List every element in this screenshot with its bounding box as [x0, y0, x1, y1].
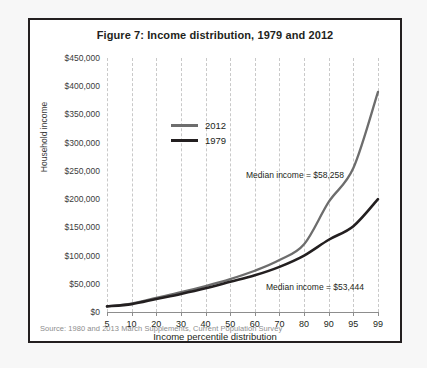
legend-item-2012: 2012 [171, 118, 226, 133]
x-axis-tick-mark [378, 312, 379, 316]
x-axis-tick-label: 90 [324, 319, 334, 329]
gridline [378, 58, 379, 312]
x-axis-tick-mark [230, 312, 231, 316]
series-line-2012 [107, 92, 378, 306]
legend-item-1979: 1979 [171, 133, 226, 148]
x-axis-tick-mark [156, 312, 157, 316]
x-axis-tick-label: 99 [373, 319, 383, 329]
y-axis-tick-label: $200,000 [65, 194, 100, 204]
annotation-median-2012: Median income = $58,258 [246, 170, 344, 180]
figure-title: Figure 7: Income distribution, 1979 and … [30, 29, 400, 41]
x-axis-line [107, 312, 378, 313]
x-axis-tick-label: 80 [299, 319, 309, 329]
x-axis-tick-mark [255, 312, 256, 316]
x-axis-tick-mark [181, 312, 182, 316]
legend-label-2012: 2012 [205, 120, 226, 131]
y-axis-tick-label: $250,000 [65, 166, 100, 176]
legend-label-1979: 1979 [205, 135, 226, 146]
source-note: Source: 1980 and 2013 March Supplements,… [40, 324, 282, 333]
x-axis-tick-mark [353, 312, 354, 316]
y-axis-tick-label: $400,000 [65, 81, 100, 91]
x-axis-tick-mark [279, 312, 280, 316]
y-axis-tick-label: $150,000 [65, 222, 100, 232]
legend: 2012 1979 [171, 118, 226, 148]
y-axis-tick-label: $50,000 [69, 279, 100, 289]
x-axis-tick-mark [132, 312, 133, 316]
x-axis-tick-mark [304, 312, 305, 316]
y-axis-tick-label: $100,000 [65, 251, 100, 261]
x-axis-tick-label: 95 [348, 319, 358, 329]
y-axis-tick-label: $350,000 [65, 109, 100, 119]
x-axis-tick-mark [206, 312, 207, 316]
x-axis-tick-mark [107, 312, 108, 316]
legend-swatch-1979-icon [171, 139, 198, 142]
x-axis-tick-mark [329, 312, 330, 316]
page-background: Figure 7: Income distribution, 1979 and … [0, 0, 427, 368]
annotation-median-1979: Median income = $53,444 [266, 282, 364, 292]
y-axis-tick-label: $0 [91, 307, 100, 317]
y-axis-tick-label: $450,000 [65, 53, 100, 63]
figure-container: Figure 7: Income distribution, 1979 and … [28, 18, 402, 343]
y-axis-tick-label: $300,000 [65, 138, 100, 148]
legend-swatch-2012-icon [171, 124, 198, 127]
series-lines [107, 58, 378, 312]
y-axis-title: Household income [39, 77, 49, 197]
plot-area [107, 58, 378, 312]
